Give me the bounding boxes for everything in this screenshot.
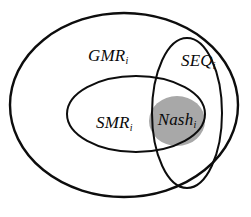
set-label-gmr-text: GMR (88, 46, 126, 65)
set-label-gmr: GMRi (88, 46, 128, 66)
set-label-seq-text: SEQ (181, 51, 213, 70)
set-label-gmr-subscript: i (125, 55, 128, 66)
set-label-seq: SEQi (181, 51, 216, 71)
set-label-smr-text: SMR (96, 113, 130, 132)
set-label-nash: Nashi (157, 110, 197, 130)
venn-diagram-canvas: GMRi SMRi SEQi Nashi (0, 0, 251, 217)
set-label-nash-text: Nash (157, 110, 194, 129)
set-label-nash-subscript: i (193, 119, 196, 130)
set-label-smr: SMRi (96, 113, 133, 133)
set-label-seq-subscript: i (213, 60, 216, 71)
set-label-smr-subscript: i (130, 122, 133, 133)
venn-diagram: GMRi SMRi SEQi Nashi (0, 0, 251, 217)
